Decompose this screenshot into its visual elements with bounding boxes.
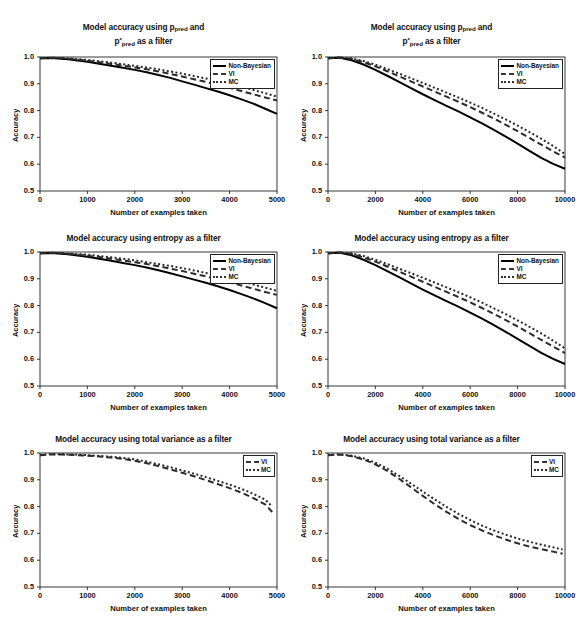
legend-label: VI xyxy=(516,70,522,78)
x-tick-label: 2000 xyxy=(110,195,160,204)
x-tick-label: 4000 xyxy=(398,390,448,399)
y-tick-label: 0.6 xyxy=(0,159,34,168)
x-tick-label: 2000 xyxy=(110,591,160,600)
legend-label: Non-Bayesian xyxy=(516,257,559,265)
panel-title: Model accuracy using total variance as a… xyxy=(0,434,287,445)
x-tick-label: 10000 xyxy=(540,195,580,204)
y-axis-label: Accuracy xyxy=(11,505,20,538)
legend-swatch-dashed xyxy=(501,70,514,77)
legend-swatch-dotted xyxy=(534,466,547,473)
legend-label: VI xyxy=(516,265,522,273)
x-tick-label: 0 xyxy=(303,390,353,399)
y-tick-label: 0.5 xyxy=(288,582,322,591)
chart-legend: Non-BayesianVIMC xyxy=(210,254,275,284)
chart-legend: Non-BayesianVIMC xyxy=(210,59,275,89)
panel-entropy-10000: Model accuracy using entropy as a filter… xyxy=(288,233,575,428)
panel-ppred-5000: Model accuracy using ppred and p*pred as… xyxy=(0,22,287,222)
x-tick-label: 8000 xyxy=(493,195,543,204)
legend-label: MC xyxy=(549,466,559,474)
chart-legend: VIMC xyxy=(243,455,275,477)
legend-item[interactable]: VI xyxy=(501,70,559,78)
y-tick-label: 0.6 xyxy=(288,354,322,363)
legend-swatch-solid xyxy=(213,257,226,264)
x-tick-label: 2000 xyxy=(350,390,400,399)
legend-label: MC xyxy=(228,78,238,86)
legend-item[interactable]: MC xyxy=(501,273,559,281)
plot-area-wrap: 1.00.90.80.70.60.5010002000300040005000N… xyxy=(0,244,287,420)
panel-ppred-10000: Model accuracy using ppred and p*pred as… xyxy=(288,22,575,222)
legend-item[interactable]: Non-Bayesian xyxy=(501,257,559,265)
x-tick-label: 0 xyxy=(303,591,353,600)
legend-item[interactable]: VI xyxy=(534,458,559,466)
y-tick-label: 1.0 xyxy=(0,52,34,61)
panel-title: Model accuracy using total variance as a… xyxy=(288,434,575,445)
title-subscript: pred xyxy=(175,25,188,32)
y-tick-label: 0.5 xyxy=(288,381,322,390)
panel-variance-5000: Model accuracy using total variance as a… xyxy=(0,434,287,629)
plot-area-wrap: 1.00.90.80.70.60.5010002000300040005000N… xyxy=(0,445,287,621)
title-subscript-2: pred xyxy=(122,40,135,47)
x-axis-label: Number of examples taken xyxy=(328,403,565,412)
legend-item[interactable]: MC xyxy=(213,273,271,281)
x-tick-label: 0 xyxy=(15,390,65,399)
y-tick-label: 0.9 xyxy=(288,79,322,88)
legend-label: Non-Bayesian xyxy=(516,62,559,70)
legend-item[interactable]: VI xyxy=(213,70,271,78)
x-tick-label: 6000 xyxy=(445,591,495,600)
panel-title: Model accuracy using entropy as a filter xyxy=(0,233,287,244)
x-tick-label: 4000 xyxy=(205,591,255,600)
x-tick-label: 4000 xyxy=(398,591,448,600)
plot-area-wrap: 1.00.90.80.70.60.50200040006000800010000… xyxy=(288,445,575,621)
x-tick-label: 8000 xyxy=(493,390,543,399)
x-tick-label: 0 xyxy=(15,195,65,204)
y-tick-label: 1.0 xyxy=(0,448,34,457)
legend-label: Non-Bayesian xyxy=(228,62,271,70)
legend-item[interactable]: MC xyxy=(213,78,271,86)
y-axis-label: Accuracy xyxy=(299,505,308,538)
panel-title: Model accuracy using entropy as a filter xyxy=(288,233,575,244)
x-tick-label: 4000 xyxy=(205,195,255,204)
x-tick-label: 4000 xyxy=(205,390,255,399)
plot-area-wrap: 1.00.90.80.70.60.5010002000300040005000N… xyxy=(0,49,287,225)
legend-swatch-dotted xyxy=(501,78,514,85)
y-tick-label: 0.5 xyxy=(0,381,34,390)
legend-swatch-dotted xyxy=(213,78,226,85)
title-text-2-cont: as a filter xyxy=(423,37,461,47)
legend-item[interactable]: VI xyxy=(246,458,271,466)
legend-swatch-solid xyxy=(213,62,226,69)
chart-legend: Non-BayesianVIMC xyxy=(498,254,563,284)
legend-label: VI xyxy=(549,458,555,466)
legend-item[interactable]: VI xyxy=(213,265,271,273)
x-tick-label: 1000 xyxy=(62,591,112,600)
y-tick-label: 0.9 xyxy=(288,475,322,484)
legend-swatch-solid xyxy=(501,62,514,69)
plot-frame xyxy=(328,453,565,587)
y-tick-label: 0.9 xyxy=(0,475,34,484)
x-tick-label: 3000 xyxy=(157,390,207,399)
legend-item[interactable]: MC xyxy=(501,78,559,86)
legend-item[interactable]: MC xyxy=(534,466,559,474)
legend-item[interactable]: Non-Bayesian xyxy=(501,62,559,70)
legend-swatch-dotted xyxy=(501,273,514,280)
legend-swatch-dashed xyxy=(213,265,226,272)
legend-label: MC xyxy=(261,466,271,474)
legend-item[interactable]: VI xyxy=(501,265,559,273)
legend-item[interactable]: MC xyxy=(246,466,271,474)
x-tick-label: 1000 xyxy=(62,390,112,399)
x-tick-label: 10000 xyxy=(540,390,580,399)
legend-item[interactable]: Non-Bayesian xyxy=(213,257,271,265)
legend-item[interactable]: Non-Bayesian xyxy=(213,62,271,70)
y-axis-label: Accuracy xyxy=(11,304,20,337)
title-subscript: pred xyxy=(463,25,476,32)
y-tick-label: 0.5 xyxy=(0,582,34,591)
legend-swatch-dotted xyxy=(246,466,259,473)
y-axis-label: Accuracy xyxy=(11,109,20,142)
y-tick-label: 0.9 xyxy=(0,274,34,283)
title-text-2-cont: as a filter xyxy=(135,37,173,47)
x-tick-label: 2000 xyxy=(350,591,400,600)
legend-swatch-solid xyxy=(501,257,514,264)
x-tick-label: 1000 xyxy=(62,195,112,204)
x-tick-label: 3000 xyxy=(157,195,207,204)
legend-label: MC xyxy=(228,273,238,281)
